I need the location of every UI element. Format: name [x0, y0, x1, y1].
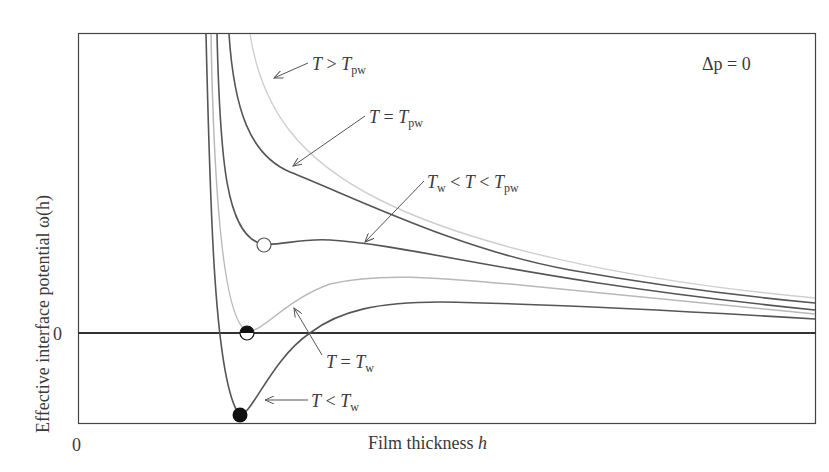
label-t-lt-tw: T < Tw [311, 392, 359, 413]
x-zero-tick: 0 [72, 436, 81, 454]
label-t-eq-tpw: T = Tpw [369, 108, 423, 129]
x-axis-var: h [478, 433, 487, 453]
curve-t-lt-tw [206, 34, 815, 414]
label-t-eq-tw: T = Tw [326, 353, 374, 374]
filled-circle-marker [233, 408, 248, 423]
arrow-t-eq-tpw [293, 116, 365, 166]
half-filled-circle-marker [240, 326, 254, 340]
x-axis-label: Film thickness h [368, 434, 487, 452]
y-zero-tick: 0 [53, 325, 62, 343]
x-axis-text: Film thickness [368, 433, 478, 453]
curve-tw-lt-t-lt-tpw [217, 34, 815, 310]
arrow-t-eq-tw [294, 308, 322, 355]
arrow-tw-lt-t-lt-tpw [365, 181, 424, 242]
open-circle-marker [257, 238, 271, 252]
delta-p-annotation: Δp = 0 [702, 55, 751, 73]
y-axis-label: Effective interface potential ω(h) [33, 195, 54, 433]
interface-potential-figure: Effective interface potential ω(h) 0 0 F… [0, 0, 829, 472]
label-t-gt-tpw: T > Tpw [312, 55, 366, 76]
arrow-t-gt-tpw [274, 63, 308, 78]
label-tw-lt-t-lt-tpw: Tw < T < Tpw [427, 173, 519, 194]
